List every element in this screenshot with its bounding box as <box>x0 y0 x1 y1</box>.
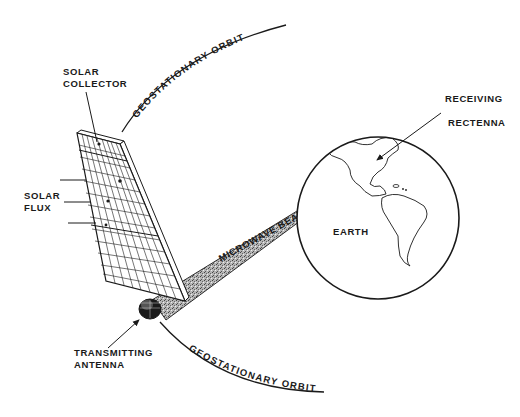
solar-flux-label-line1: SOLAR <box>24 190 60 201</box>
orbit-upper: GEOSTATIONARY ORBIT <box>122 25 286 132</box>
orbit-upper-label: GEOSTATIONARY ORBIT <box>130 31 246 120</box>
solar-collector-panel <box>77 130 189 301</box>
earth-label: EARTH <box>333 226 369 237</box>
solar-collector-label-line2: COLLECTOR <box>63 78 127 89</box>
solar-collector-label-line1: SOLAR <box>63 66 99 77</box>
earth: EARTH <box>297 118 459 299</box>
orbit-lower-label: GEOSTATIONARY ORBIT <box>187 342 317 394</box>
transmitting-antenna <box>108 299 161 348</box>
transmitting-antenna-label-line1: TRANSMITTING <box>74 347 153 358</box>
orbit-lower: GEOSTATIONARY ORBIT <box>160 322 324 394</box>
microwave-beam-label: MICROWAVE BEAM <box>217 207 308 264</box>
rectenna-label-line1: RECEIVING <box>445 93 503 104</box>
solar-power-satellite-diagram: GEOSTATIONARY ORBIT GEOSTATIONARY ORBIT … <box>0 0 520 417</box>
solar-flux-label-line2: FLUX <box>24 202 51 213</box>
transmitting-antenna-label-line2: ANTENNA <box>74 359 125 370</box>
rectenna-label-line2: RECTENNA <box>448 117 506 128</box>
